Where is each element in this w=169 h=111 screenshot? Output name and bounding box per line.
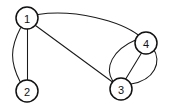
graph-edge-1-4 [38, 13, 139, 35]
graph-node-label-1: 1 [24, 13, 30, 25]
graph-edge-3-4 [126, 53, 142, 79]
node-layer: 1234 [16, 7, 157, 102]
graph-node-label-4: 4 [143, 38, 149, 50]
graph-figure: 1234 [0, 0, 169, 111]
graph-edge-1-3 [36, 26, 113, 83]
graph-node-1: 1 [16, 7, 38, 29]
graph-edge-1-2 [13, 28, 21, 82]
graph-node-label-3: 3 [118, 84, 124, 96]
graph-node-label-2: 2 [24, 86, 30, 98]
graph-node-3: 3 [110, 78, 132, 100]
graph-node-4: 4 [135, 32, 157, 54]
graph-diagram: 1234 [0, 0, 169, 111]
graph-node-2: 2 [16, 80, 38, 102]
graph-edge-3-4 [109, 40, 136, 82]
